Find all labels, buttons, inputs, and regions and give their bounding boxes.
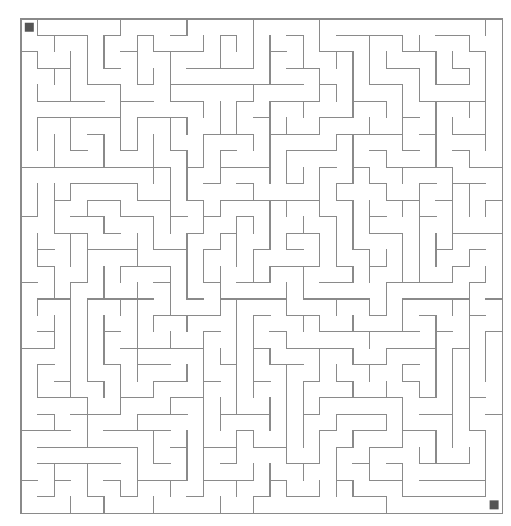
end-marker <box>490 500 499 509</box>
start-marker <box>25 23 34 32</box>
maze-board[interactable] <box>0 0 511 526</box>
maze-canvas[interactable] <box>0 0 511 526</box>
maze-walls <box>21 19 502 513</box>
